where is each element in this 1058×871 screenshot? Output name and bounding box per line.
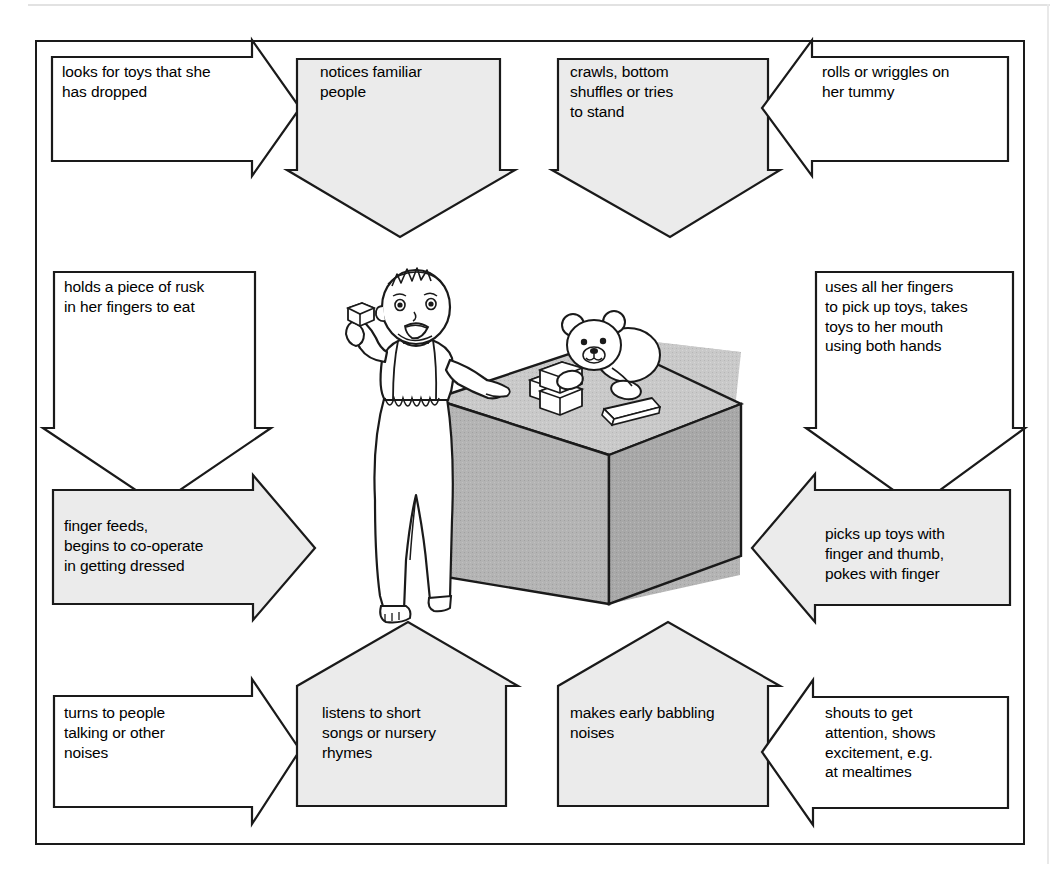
arrow-label-makes-early-babbling: makes early babbling noises [570,703,775,743]
figure-page: looks for toys that she has dropped noti… [0,0,1058,871]
arrow-label-picks-up-toys: picks up toys with finger and thumb, pok… [825,524,1015,583]
arrow-label-holds-piece-of-rusk: holds a piece of rusk in her fingers to … [64,277,279,317]
arrow-label-shouts-to-get-attention: shouts to get attention, shows excitemen… [825,703,1015,782]
arrow-label-looks-for-toys: looks for toys that she has dropped [62,62,277,102]
baby-standing-at-table-illustration [346,268,741,623]
arrow-label-turns-to-people-talking: turns to people talking or other noises [64,703,264,762]
arrow-rolls-or-wriggles [762,40,1008,176]
arrow-label-uses-all-her-fingers: uses all her fingers to pick up toys, ta… [825,277,1020,356]
arrow-label-crawls-bottom-shuffles: crawls, bottom shuffles or tries to stan… [570,62,765,121]
arrow-label-rolls-or-wriggles: rolls or wriggles on her tummy [822,62,1012,102]
arrow-looks-for-toys [52,40,300,176]
arrow-label-finger-feeds: finger feeds, begins to co-operate in ge… [64,516,279,575]
arrow-label-listens-to-short-songs: listens to short songs or nursery rhymes [322,703,512,762]
arrow-label-notices-familiar-people: notices familiar people [320,62,500,102]
